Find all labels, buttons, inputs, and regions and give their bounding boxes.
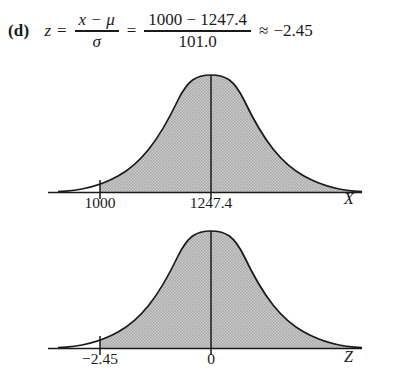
formula-row: (d) z = x − μ σ = 1000 − 1247.4 101.0 ≈ … [0,0,414,62]
tick-label-neg-2-45: −2.45 [74,350,126,368]
shaded-region-x [58,75,362,192]
tick-label-1247-4: 1247.4 [180,194,242,212]
z-score-formula: z = x − μ σ = 1000 − 1247.4 101.0 ≈ −2.4… [43,11,312,50]
tick-label-zero: 0 [198,350,224,368]
fraction-symbolic-denominator: σ [88,32,104,51]
axis-label-x: X [344,190,354,208]
formula-equals-second: = [122,21,142,41]
approximately-equal-sign: ≈ [254,21,273,41]
formula-variable-z: z [43,21,52,41]
tick-label-1000: 1000 [76,194,124,212]
axis-label-z: Z [344,348,353,366]
formula-result-value: −2.45 [273,21,312,41]
fraction-numeric: 1000 − 1247.4 101.0 [144,11,251,50]
normal-curve-x-chart: 1000 1247.4 X [0,58,414,220]
standard-normal-curve-z-chart: −2.45 0 Z [0,214,414,387]
shaded-region-z [58,231,362,348]
fraction-symbolic: x − μ σ [75,11,119,50]
part-label: (d) [8,21,29,41]
formula-equals-first: = [52,21,72,41]
fraction-numeric-denominator: 101.0 [175,32,221,51]
fraction-symbolic-numerator: x − μ [75,11,119,30]
fraction-numeric-numerator: 1000 − 1247.4 [144,11,251,30]
